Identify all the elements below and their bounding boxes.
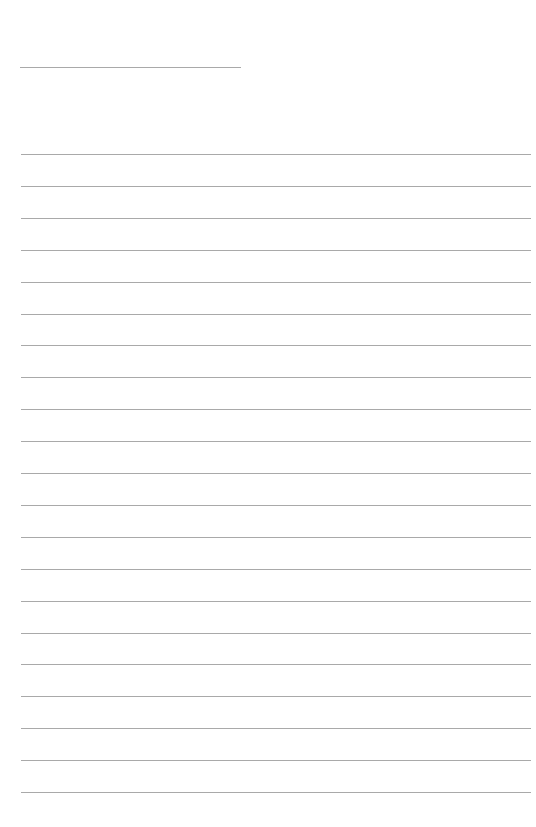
ruled-line: [21, 728, 531, 729]
ruled-line: [21, 218, 531, 219]
ruled-line: [21, 441, 531, 442]
ruled-line: [21, 760, 531, 761]
ruled-line: [21, 633, 531, 634]
ruled-line: [21, 473, 531, 474]
ruled-line: [21, 377, 531, 378]
ruled-line: [21, 314, 531, 315]
ruled-line: [21, 282, 531, 283]
ruled-line: [21, 154, 531, 155]
ruled-line: [21, 664, 531, 665]
ruled-line: [21, 537, 531, 538]
ruled-line: [21, 696, 531, 697]
ruled-line: [21, 409, 531, 410]
ruled-line: [21, 792, 531, 793]
ruled-line: [21, 250, 531, 251]
ruled-line: [21, 505, 531, 506]
ruled-line: [21, 345, 531, 346]
ruled-line: [21, 601, 531, 602]
ruled-line: [21, 569, 531, 570]
header-line: [20, 67, 241, 68]
ruled-line: [21, 186, 531, 187]
